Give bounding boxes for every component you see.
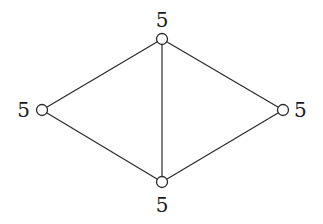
node-right <box>278 105 289 116</box>
node-bottom <box>157 177 168 188</box>
node-label-right: 5 <box>294 98 307 122</box>
node-left <box>37 105 48 116</box>
graph-diagram: 5555 <box>0 0 323 224</box>
edge-top-right <box>162 39 283 110</box>
edges-group <box>42 39 283 182</box>
edge-left-bottom <box>42 110 162 182</box>
node-top <box>157 34 168 45</box>
node-label-top: 5 <box>156 8 169 32</box>
edge-right-bottom <box>162 110 283 182</box>
node-label-left: 5 <box>17 98 30 122</box>
edge-top-left <box>42 39 162 110</box>
node-label-bottom: 5 <box>156 193 169 217</box>
